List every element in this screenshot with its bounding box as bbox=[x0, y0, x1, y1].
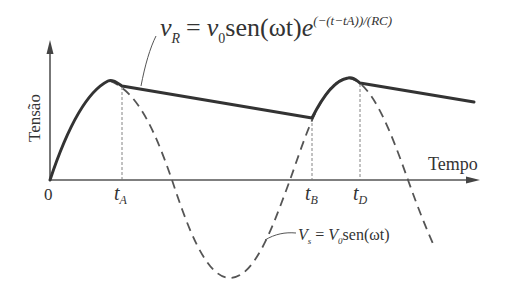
tB-label: tB bbox=[305, 182, 319, 207]
rc-rectifier-diagram: Tensão Tempo 0 tA tB tD vR=v0sen(ωt)e(−(… bbox=[0, 0, 509, 296]
tD-label: tD bbox=[353, 182, 368, 207]
vr-leader-line bbox=[141, 36, 156, 86]
source-voltage-curve bbox=[110, 78, 434, 278]
y-axis-arrow-icon bbox=[47, 40, 54, 54]
output-voltage-curve bbox=[50, 78, 474, 180]
vs-equation: Vs=V0sen(ωt) bbox=[298, 226, 390, 246]
x-axis-label: Tempo bbox=[428, 154, 478, 174]
vr-equation: vR=v0sen(ωt)e(−(t−tA))/(RC) bbox=[160, 13, 392, 46]
x-axis-arrow-icon bbox=[466, 177, 480, 184]
y-axis-label: Tensão bbox=[25, 94, 44, 142]
origin-label: 0 bbox=[44, 185, 53, 204]
tA-label: tA bbox=[114, 182, 128, 207]
axes bbox=[47, 40, 481, 184]
